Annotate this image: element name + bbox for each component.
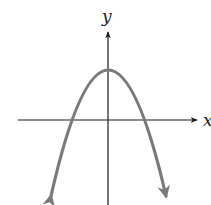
y-axis-label: y [101, 6, 112, 26]
parabola-graph: y x [0, 0, 211, 205]
x-axis-label: x [203, 110, 211, 130]
